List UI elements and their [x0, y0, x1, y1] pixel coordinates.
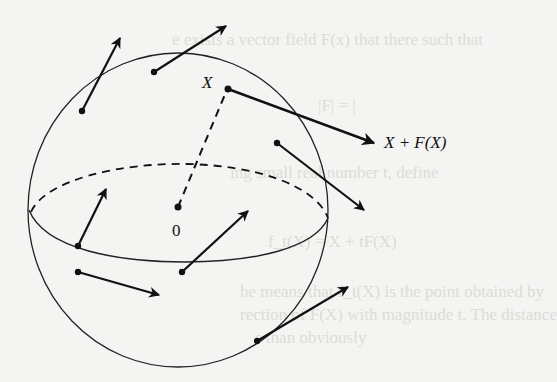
- point-x-label: X: [201, 73, 213, 92]
- vector-arrow: [78, 189, 106, 246]
- vector-arrow: [78, 272, 159, 295]
- vector-arrow: [257, 287, 348, 341]
- vector-arrow: [182, 211, 248, 272]
- vector-arrow: [277, 143, 364, 210]
- vector-arrow: [154, 26, 226, 72]
- origin-label: 0: [172, 221, 181, 240]
- origin-point: [175, 204, 182, 211]
- radius-dashed: [178, 92, 226, 207]
- vector-arrow: [82, 38, 120, 111]
- vector-field-arrows: [75, 26, 364, 344]
- image-point-label: X + F(X): [383, 133, 447, 152]
- vector-f-at-x: [228, 89, 374, 143]
